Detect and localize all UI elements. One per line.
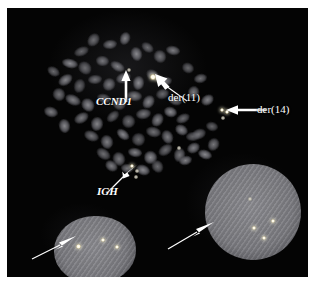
micrograph-canvas: CCND1 der(11) der(14) IGH: [7, 8, 308, 277]
fish-signal: [177, 146, 180, 149]
label-der11: der(11): [168, 92, 200, 103]
nucleus-right: [205, 164, 301, 260]
label-igh: IGH: [97, 186, 118, 197]
fish-figure: CCND1 der(11) der(14) IGH: [0, 0, 323, 288]
label-ccnd1: CCND1: [96, 96, 132, 107]
fish-signal: [221, 116, 225, 120]
arrow-nucleus-left: [31, 236, 77, 260]
fish-signal: [248, 197, 252, 201]
label-der14: der(14): [257, 104, 289, 115]
arrow-nucleus-right: [167, 222, 215, 250]
